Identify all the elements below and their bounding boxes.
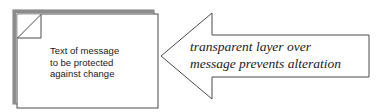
annotation-line-1: transparent layer over (190, 38, 370, 55)
message-text: Text of message to be protected against … (50, 45, 160, 80)
protection-diagram: Text of message to be protected against … (0, 0, 378, 112)
annotation-line-2: message prevents alteration (190, 55, 370, 72)
message-line-3: against change (50, 68, 160, 80)
message-line-2: to be protected (50, 57, 160, 69)
annotation-text: transparent layer over message prevents … (190, 38, 370, 72)
message-line-1: Text of message (50, 45, 160, 57)
